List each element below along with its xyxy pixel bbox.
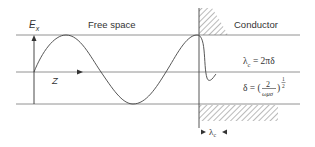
svg-text:ωμσ: ωμσ bbox=[262, 90, 274, 97]
region-label-free-space: Free space bbox=[88, 19, 136, 30]
svg-text:δ = (: δ = ( bbox=[243, 83, 261, 94]
svg-text:2: 2 bbox=[266, 80, 270, 89]
dimension-label: λc bbox=[209, 127, 216, 138]
skin-effect-diagram: Ex Free space Conductor Z λc = 2πδ δ = (… bbox=[0, 0, 315, 147]
wavelength-equation: λc = 2πδ bbox=[243, 56, 275, 68]
svg-text:2: 2 bbox=[282, 83, 285, 89]
region-label-conductor: Conductor bbox=[234, 19, 278, 30]
conductor-hatch-top bbox=[199, 8, 228, 35]
ex-axis-arrow-icon bbox=[32, 35, 37, 41]
svg-text:1: 1 bbox=[282, 76, 285, 82]
ex-axis-label: Ex bbox=[29, 19, 40, 32]
z-axis-arrow-icon bbox=[77, 70, 83, 75]
svg-text:): ) bbox=[277, 83, 280, 94]
dimension-arrow-left-icon bbox=[201, 130, 206, 135]
dimension-arrow-right-icon bbox=[222, 130, 227, 135]
skin-depth-equation: δ = ( 2 ωμσ ) 1 2 bbox=[243, 76, 286, 97]
conductor-hatch-bottom bbox=[199, 105, 278, 121]
wave-curve bbox=[34, 35, 216, 104]
z-axis-label: Z bbox=[51, 75, 59, 86]
